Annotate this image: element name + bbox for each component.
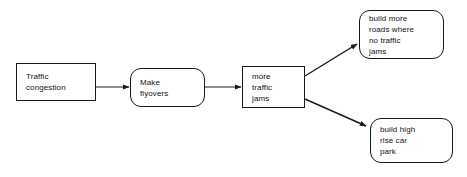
node-more-traffic-jams-label: more traffic jams — [243, 71, 277, 104]
node-make-flyovers-label: Make flyovers — [131, 77, 173, 99]
node-build-more-roads-label: build more roads where no traffic jams — [360, 13, 419, 57]
node-traffic-congestion[interactable]: Traffic congestion — [16, 63, 96, 101]
diagram-canvas: Traffic congestion Make flyovers more tr… — [0, 0, 467, 177]
node-make-flyovers[interactable]: Make flyovers — [130, 68, 205, 107]
node-build-more-roads[interactable]: build more roads where no traffic jams — [359, 10, 444, 59]
node-more-traffic-jams[interactable]: more traffic jams — [242, 66, 305, 108]
node-build-car-park-label: build high rise car park — [371, 124, 420, 157]
node-build-car-park[interactable]: build high rise car park — [370, 118, 453, 163]
edge-jams-to-carpark — [305, 99, 366, 126]
edge-jams-to-roads — [305, 44, 357, 76]
node-traffic-congestion-label: Traffic congestion — [17, 71, 71, 93]
